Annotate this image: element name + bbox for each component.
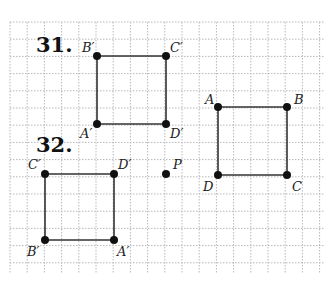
vertex-point — [283, 103, 291, 111]
vertex-label: C — [292, 179, 302, 194]
vertex-label: C′ — [170, 40, 183, 55]
vertex-point — [110, 170, 118, 178]
vertex-label: A′ — [116, 244, 129, 259]
problem-number: 32. — [36, 132, 73, 157]
vertex-label: D′ — [117, 157, 131, 172]
vertex-label: D′ — [169, 126, 183, 141]
vertex-point — [214, 171, 222, 179]
vertex-point — [110, 236, 118, 244]
vertex-label: A — [204, 92, 214, 107]
vertex-label: B — [293, 92, 304, 107]
problem-numbers: 31.32. — [36, 32, 73, 157]
vertex-point — [283, 171, 291, 179]
vertex-point — [162, 52, 170, 60]
vertex-label: B′ — [26, 244, 40, 259]
vertex-label: A′ — [79, 126, 92, 141]
diagram-canvas: B′C′D′A′ABCDC′D′A′B′P 31.32. — [0, 0, 336, 286]
vertex-point — [93, 120, 101, 128]
vertex-point — [214, 103, 222, 111]
vertex-point — [41, 170, 49, 178]
square-abcd: ABCD — [202, 92, 304, 194]
center-point-label: P — [172, 157, 182, 172]
square-outline — [218, 107, 287, 175]
vertex-label: B′ — [81, 40, 95, 55]
vertex-point — [162, 120, 170, 128]
vertex-label: D — [202, 179, 214, 194]
center-point-p — [162, 170, 170, 178]
vertex-label: C′ — [28, 157, 41, 172]
square-outline — [45, 174, 114, 240]
square-outline — [97, 56, 166, 124]
problem-number: 31. — [36, 32, 73, 57]
vertex-point — [41, 236, 49, 244]
